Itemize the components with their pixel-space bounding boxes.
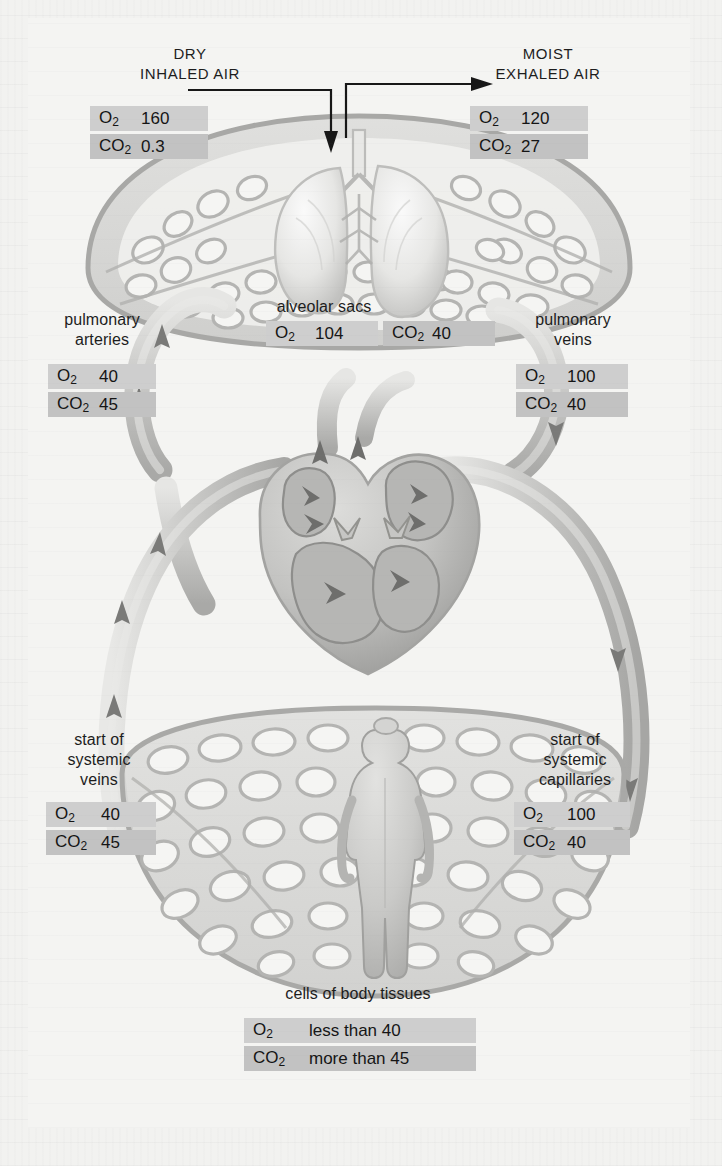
pulmonary-arteries-label: pulmonary arteries bbox=[28, 310, 182, 350]
value-row-co2: CO2 45 bbox=[46, 830, 156, 855]
values-start-systemic-capillaries: O2 100 CO2 40 bbox=[514, 802, 630, 858]
gas-label-o2: O2 bbox=[479, 105, 521, 132]
value-row-o2: O2 40 bbox=[46, 802, 156, 827]
value-row-o2: O2 40 bbox=[48, 364, 156, 389]
value-row-o2: O2 less than 40 bbox=[244, 1018, 476, 1043]
value-row-co2: CO2 27 bbox=[470, 134, 588, 159]
value-co2: 40 bbox=[567, 830, 586, 855]
gas-label-co2: CO2 bbox=[523, 829, 567, 856]
value-o2: 104 bbox=[315, 321, 343, 346]
moist-exhaled-air-label: MOIST EXHALED AIR bbox=[448, 44, 648, 84]
gas-label-co2: CO2 bbox=[55, 829, 101, 856]
gas-label-co2: CO2 bbox=[253, 1045, 309, 1072]
gas-label-co2: CO2 bbox=[99, 133, 141, 160]
gas-label-co2: CO2 bbox=[392, 320, 432, 347]
gas-label-o2: O2 bbox=[523, 801, 567, 828]
gas-label-o2: O2 bbox=[253, 1017, 309, 1044]
values-alveolar-sacs: O2 104 CO2 40 bbox=[266, 321, 495, 346]
dry-inhaled-air-label: DRY INHALED AIR bbox=[100, 44, 280, 84]
alveolar-sacs-label: alveolar sacs bbox=[234, 297, 414, 317]
cells-of-body-tissues-label: cells of body tissues bbox=[208, 984, 508, 1004]
gas-exchange-illustration bbox=[28, 18, 690, 1128]
value-o2: less than 40 bbox=[309, 1018, 401, 1043]
gas-label-o2: O2 bbox=[57, 363, 99, 390]
value-o2: 100 bbox=[567, 802, 595, 827]
value-row-o2: O2 120 bbox=[470, 106, 588, 131]
gas-label-co2: CO2 bbox=[57, 391, 99, 418]
value-row-co2: CO2 45 bbox=[48, 392, 156, 417]
values-pulmonary-arteries: O2 40 CO2 45 bbox=[48, 364, 156, 420]
value-o2: 160 bbox=[141, 106, 169, 131]
values-moist-exhaled-air: O2 120 CO2 27 bbox=[470, 106, 588, 162]
value-co2: more than 45 bbox=[309, 1046, 409, 1071]
value-row-co2: CO2 40 bbox=[383, 321, 495, 346]
value-row-co2: CO2 more than 45 bbox=[244, 1046, 476, 1071]
gas-label-co2: CO2 bbox=[525, 391, 567, 418]
start-systemic-capillaries-label: start of systemic capillaries bbox=[486, 730, 664, 790]
value-co2: 45 bbox=[99, 392, 118, 417]
figure-panel: DRY INHALED AIR MOIST EXHALED AIR alveol… bbox=[28, 18, 690, 1128]
values-dry-inhaled-air: O2 160 CO2 0.3 bbox=[90, 106, 208, 162]
value-row-co2: CO2 40 bbox=[516, 392, 628, 417]
value-row-o2: O2 160 bbox=[90, 106, 208, 131]
value-co2: 27 bbox=[521, 134, 540, 159]
gas-label-o2: O2 bbox=[55, 801, 101, 828]
value-row-o2: O2 100 bbox=[514, 802, 630, 827]
gas-label-o2: O2 bbox=[525, 363, 567, 390]
gas-label-o2: O2 bbox=[275, 320, 315, 347]
values-cells-of-body-tissues: O2 less than 40 CO2 more than 45 bbox=[244, 1018, 476, 1074]
start-systemic-veins-label: start of systemic veins bbox=[28, 730, 174, 790]
value-co2: 0.3 bbox=[141, 134, 165, 159]
value-o2: 120 bbox=[521, 106, 549, 131]
values-pulmonary-veins: O2 100 CO2 40 bbox=[516, 364, 628, 420]
value-row-co2: CO2 0.3 bbox=[90, 134, 208, 159]
value-o2: 40 bbox=[101, 802, 120, 827]
value-co2: 40 bbox=[567, 392, 586, 417]
pulmonary-veins-label: pulmonary veins bbox=[488, 310, 658, 350]
value-row-o2: O2 104 bbox=[266, 321, 378, 346]
value-o2: 40 bbox=[99, 364, 118, 389]
value-row-co2: CO2 40 bbox=[514, 830, 630, 855]
value-row-o2: O2 100 bbox=[516, 364, 628, 389]
value-o2: 100 bbox=[567, 364, 595, 389]
value-co2: 40 bbox=[432, 321, 451, 346]
gas-label-co2: CO2 bbox=[479, 133, 521, 160]
value-co2: 45 bbox=[101, 830, 120, 855]
values-start-systemic-veins: O2 40 CO2 45 bbox=[46, 802, 156, 858]
heart-icon bbox=[260, 378, 479, 674]
gas-label-o2: O2 bbox=[99, 105, 141, 132]
